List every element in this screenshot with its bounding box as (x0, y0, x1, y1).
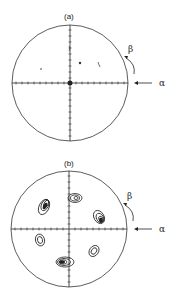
pole-dot (79, 62, 81, 64)
figure-a-label: (a) (64, 12, 74, 21)
pole-figures: (a) β α (b) (0, 0, 177, 304)
arrow-head-icon (134, 227, 138, 231)
beta-label: β (128, 44, 133, 54)
pole-figure-b: (b) β (11, 159, 165, 287)
beta-label: β (127, 191, 132, 201)
pole-dot (40, 68, 42, 70)
arrow-head-icon (134, 81, 138, 85)
center-pole (68, 81, 73, 86)
pole-figure-a: (a) β α (12, 12, 165, 141)
figure-b-label: (b) (64, 159, 74, 168)
alpha-label: α (159, 224, 165, 234)
alpha-label: α (159, 78, 165, 88)
intensity-marks (69, 46, 100, 67)
